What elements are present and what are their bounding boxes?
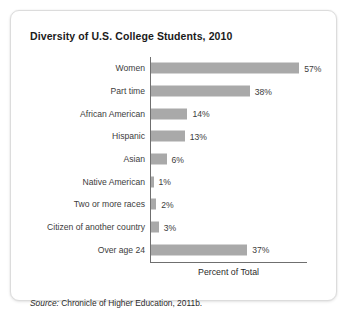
bar-group: 1% [151,176,171,187]
bar-row: African American14% [11,102,338,125]
bar-category-label: Citizen of another country [47,222,150,232]
bar [151,199,156,210]
chart-card: Diversity of U.S. College Students, 2010… [10,10,337,301]
bar-group: 14% [151,108,210,119]
x-axis-title: Percent of Total [150,267,307,277]
bar-category-label: Asian [124,154,151,164]
bar-value-label: 3% [164,222,176,232]
bar [151,154,167,165]
bar-category-label: Part time [111,86,150,96]
bar-group: 37% [151,244,269,255]
bar-value-label: 14% [192,109,209,119]
chart-title: Diversity of U.S. College Students, 2010 [30,30,232,42]
bar-value-label: 2% [161,199,173,209]
bar-value-label: 57% [304,63,321,73]
value-axis-line [150,262,307,263]
bar-category-label: Over age 24 [98,245,150,255]
source-label: Source: [30,298,59,308]
bar [151,63,299,74]
bar-group: 57% [151,63,321,74]
bar-value-label: 37% [252,245,269,255]
source-note: Source: Chronicle of Higher Education, 2… [30,298,202,308]
bar-category-label: African American [80,109,150,119]
bar-value-label: 6% [172,154,184,164]
bar-value-label: 13% [190,131,207,141]
bar-group: 2% [151,199,174,210]
bar-row: Citizen of another country3% [11,216,338,239]
bar [151,131,185,142]
bar-row: Two or more races2% [11,193,338,216]
bar-row: Hispanic13% [11,125,338,148]
bar-row: Over age 2437% [11,239,338,262]
bar-row: Part time38% [11,80,338,103]
bar [151,244,247,255]
bar-group: 3% [151,222,176,233]
bar [151,108,187,119]
bar [151,222,159,233]
bar-row: Asian6% [11,148,338,171]
bar-group: 13% [151,131,207,142]
plot-area: Women57%Part time38%African American14%H… [11,47,338,263]
bar-rows: Women57%Part time38%African American14%H… [11,57,338,262]
bar-category-label: Hispanic [112,131,150,141]
bar-category-label: Native American [82,177,150,187]
bar [151,176,154,187]
source-text: Chronicle of Higher Education, 2011b. [61,298,202,308]
bar-row: Native American1% [11,170,338,193]
bar-group: 38% [151,86,272,97]
bar-row: Women57% [11,57,338,80]
bar-category-label: Two or more races [74,199,150,209]
chart-screenshot: Diversity of U.S. College Students, 2010… [0,0,349,317]
bar-value-label: 1% [159,177,171,187]
bar-category-label: Women [116,63,150,73]
bar-group: 6% [151,154,184,165]
bar-value-label: 38% [255,86,272,96]
bar [151,86,250,97]
